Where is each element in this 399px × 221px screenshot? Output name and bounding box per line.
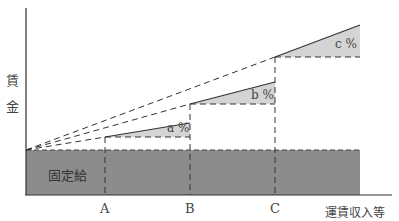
- rate-b-label: b %: [251, 88, 274, 102]
- rate-c-label: c %: [335, 37, 357, 51]
- wage-diagram: [0, 0, 399, 221]
- rate-a-label: a %: [167, 121, 189, 135]
- x-axis-label: 運賃収入等: [325, 203, 385, 220]
- tick-a: A: [100, 201, 109, 216]
- y-axis-label-2: 金: [6, 96, 19, 115]
- fixed-pay-label: 固定給: [48, 165, 87, 184]
- tick-b: B: [185, 201, 195, 216]
- y-axis-label-1: 賃: [6, 70, 19, 89]
- tick-c: C: [270, 201, 280, 216]
